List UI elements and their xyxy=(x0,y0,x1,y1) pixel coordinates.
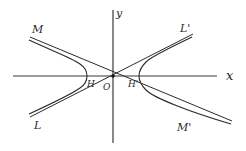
label-y-axis: y xyxy=(115,7,123,20)
label-l-prime: L' xyxy=(179,22,190,35)
label-l: L xyxy=(33,119,41,132)
label-m: M xyxy=(31,23,44,36)
hyperbola-diagram: M L' L M' H O H' x y xyxy=(0,0,246,151)
label-o: O xyxy=(103,82,111,92)
label-h: H xyxy=(86,79,95,89)
label-m-prime: M' xyxy=(176,121,191,134)
label-h-prime: H' xyxy=(127,79,138,89)
origin-point xyxy=(111,74,115,78)
label-x-axis: x xyxy=(226,68,234,83)
hyperbola-right-branch xyxy=(139,37,231,124)
